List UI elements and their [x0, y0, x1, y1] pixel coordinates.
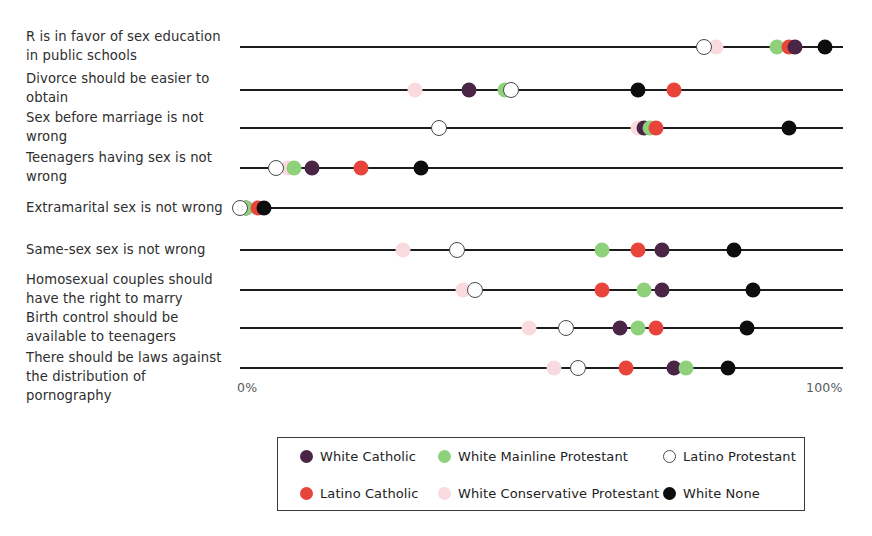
data-point-latino_catholic[interactable]: [667, 83, 682, 98]
data-point-latino_catholic[interactable]: [353, 161, 368, 176]
row-label: Extramarital sex is not wrong: [26, 198, 236, 217]
data-point-latino_protestant[interactable]: [570, 360, 586, 376]
row-axis-line: [240, 89, 843, 91]
data-point-latino_catholic[interactable]: [649, 321, 664, 336]
legend-item-label: White Mainline Protestant: [458, 449, 628, 464]
legend-item-label: Latino Protestant: [683, 449, 796, 464]
data-point-white_none[interactable]: [721, 361, 736, 376]
row-label: Teenagers having sex is not wrong: [26, 148, 236, 186]
data-point-latino_catholic[interactable]: [594, 283, 609, 298]
data-point-latino_catholic[interactable]: [630, 243, 645, 258]
data-point-white_catholic[interactable]: [462, 83, 477, 98]
data-point-white_mainline_protestant[interactable]: [630, 321, 645, 336]
data-point-latino_catholic[interactable]: [649, 121, 664, 136]
legend-item-latino_protestant[interactable]: Latino Protestant: [663, 449, 796, 464]
data-point-white_conservative_protestant[interactable]: [407, 83, 422, 98]
legend-swatch-icon: [663, 450, 676, 463]
data-point-latino_protestant[interactable]: [449, 242, 465, 258]
data-point-white_catholic[interactable]: [612, 321, 627, 336]
data-point-white_none[interactable]: [817, 40, 832, 55]
legend-item-white_catholic[interactable]: White Catholic: [300, 449, 416, 464]
row-axis-line: [240, 46, 843, 48]
row-label: Divorce should be easier to obtain: [26, 69, 236, 107]
legend-item-white_conservative_protestant[interactable]: White Conservative Protestant: [438, 486, 659, 501]
legend: White CatholicWhite Mainline ProtestantL…: [277, 437, 805, 511]
data-point-latino_protestant[interactable]: [268, 160, 284, 176]
row-label: Homosexual couples should have the right…: [26, 270, 236, 308]
dot-plot-chart: R is in favor of sex education in public…: [0, 0, 872, 420]
row-axis-line: [240, 249, 843, 251]
legend-swatch-icon: [438, 450, 451, 463]
legend-swatch-icon: [663, 487, 676, 500]
data-point-white_conservative_protestant[interactable]: [395, 243, 410, 258]
data-point-latino_protestant[interactable]: [558, 320, 574, 336]
legend-item-label: Latino Catholic: [320, 486, 418, 501]
legend-swatch-icon: [438, 487, 451, 500]
row-label: R is in favor of sex education in public…: [26, 27, 236, 65]
row-label: Same-sex sex is not wrong: [26, 240, 236, 259]
row-label: Sex before marriage is not wrong: [26, 108, 236, 146]
data-point-white_mainline_protestant[interactable]: [637, 283, 652, 298]
row-label: There should be laws against the distrib…: [26, 348, 236, 405]
legend-item-latino_catholic[interactable]: Latino Catholic: [300, 486, 418, 501]
data-point-white_conservative_protestant[interactable]: [546, 361, 561, 376]
data-point-latino_protestant[interactable]: [467, 282, 483, 298]
data-point-white_none[interactable]: [739, 321, 754, 336]
legend-item-label: White Catholic: [320, 449, 416, 464]
axis-tick-label-min: 0%: [237, 380, 257, 395]
legend-item-white_mainline_protestant[interactable]: White Mainline Protestant: [438, 449, 628, 464]
data-point-white_none[interactable]: [745, 283, 760, 298]
legend-item-label: White Conservative Protestant: [458, 486, 659, 501]
data-point-white_none[interactable]: [257, 201, 272, 216]
legend-item-label: White None: [683, 486, 760, 501]
legend-row: White CatholicWhite Mainline ProtestantL…: [278, 438, 804, 475]
row-axis-line: [240, 367, 843, 369]
data-point-white_catholic[interactable]: [787, 40, 802, 55]
data-point-latino_protestant[interactable]: [696, 39, 712, 55]
data-point-white_catholic[interactable]: [655, 243, 670, 258]
legend-swatch-icon: [300, 487, 313, 500]
data-point-white_mainline_protestant[interactable]: [679, 361, 694, 376]
row-axis-line: [240, 127, 843, 129]
data-point-latino_protestant[interactable]: [232, 200, 248, 216]
data-point-white_none[interactable]: [630, 83, 645, 98]
data-point-white_catholic[interactable]: [305, 161, 320, 176]
axis-tick-label-max: 100%: [806, 380, 843, 395]
data-point-white_none[interactable]: [781, 121, 796, 136]
data-point-white_catholic[interactable]: [655, 283, 670, 298]
data-point-white_none[interactable]: [413, 161, 428, 176]
data-point-latino_protestant[interactable]: [503, 82, 519, 98]
legend-item-white_none[interactable]: White None: [663, 486, 760, 501]
row-axis-line: [240, 207, 843, 209]
data-point-latino_catholic[interactable]: [618, 361, 633, 376]
legend-swatch-icon: [300, 450, 313, 463]
data-point-white_mainline_protestant[interactable]: [287, 161, 302, 176]
data-point-white_none[interactable]: [727, 243, 742, 258]
row-axis-line: [240, 167, 843, 169]
data-point-white_mainline_protestant[interactable]: [594, 243, 609, 258]
data-point-white_conservative_protestant[interactable]: [522, 321, 537, 336]
legend-row: Latino CatholicWhite Conservative Protes…: [278, 475, 804, 512]
row-label: Birth control should be available to tee…: [26, 308, 236, 346]
data-point-latino_protestant[interactable]: [431, 120, 447, 136]
